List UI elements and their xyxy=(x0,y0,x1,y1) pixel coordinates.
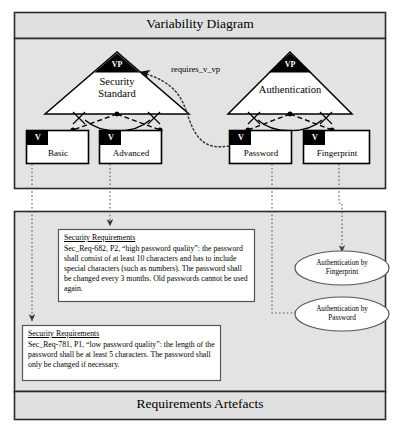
ellipse-password-shape[interactable] xyxy=(295,297,389,331)
v-fingerprint-shape[interactable] xyxy=(304,131,370,164)
req-box-682[interactable] xyxy=(59,230,255,302)
v-password-shape[interactable] xyxy=(230,131,292,164)
variability-diagram-figure: Variability Diagram Requirements Artefac… xyxy=(0,0,400,433)
req-box-781[interactable] xyxy=(23,326,221,381)
ellipse-fingerprint-shape[interactable] xyxy=(295,251,389,285)
v-advanced-shape[interactable] xyxy=(100,131,162,164)
diagram-canvas xyxy=(0,0,400,433)
v-basic-shape[interactable] xyxy=(27,131,89,164)
